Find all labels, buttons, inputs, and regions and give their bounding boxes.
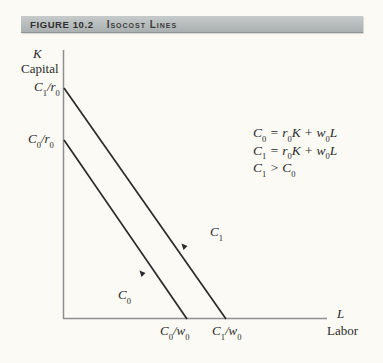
math-fragment: 1 [262, 169, 266, 179]
isocost-plot [0, 0, 383, 363]
math-fragment: C [253, 125, 262, 140]
math-fragment: 0 [287, 134, 291, 144]
equation-c0: C0 = r0K + w0L [253, 124, 337, 142]
math-fragment: C [118, 287, 127, 302]
x-axis-symbol: L [337, 306, 344, 321]
figure-panel: FIGURE 10.2 Isocost Lines K Capital C1/r… [0, 0, 383, 363]
math-fragment: /w [173, 323, 185, 338]
math-fragment: > C [266, 160, 291, 175]
line-label-c1: C1 [210, 224, 223, 239]
math-fragment: /r [47, 79, 56, 94]
math-fragment: 1 [221, 332, 225, 342]
math-fragment: = r [266, 143, 287, 158]
arrow-marker-c1-icon [182, 244, 188, 251]
equation-inequality: C1 > C0 [253, 159, 337, 177]
math-fragment: 0 [287, 151, 291, 161]
math-fragment: 0 [50, 140, 54, 150]
math-fragment: 0 [326, 134, 330, 144]
math-fragment: C [210, 224, 219, 239]
math-fragment: 1 [219, 233, 223, 243]
arrow-marker-c0-icon [140, 271, 146, 278]
math-fragment: 0 [127, 296, 131, 306]
isocost-line-c1 [64, 88, 226, 319]
y-intercept-c0-r0: C0/r0 [28, 131, 54, 146]
math-fragment: 0 [56, 88, 60, 98]
math-fragment: L [330, 125, 338, 140]
math-fragment: K + w [292, 143, 326, 158]
x-intercept-c1-w0: C1/w0 [212, 323, 241, 338]
math-fragment: = r [266, 125, 287, 140]
line-label-c0: C0 [118, 287, 131, 302]
math-fragment: K + w [292, 125, 326, 140]
math-fragment: C [160, 323, 169, 338]
y-axis-symbol: K [33, 46, 42, 61]
math-fragment: C [253, 143, 262, 158]
math-fragment: C [28, 131, 37, 146]
math-fragment: 0 [169, 332, 173, 342]
math-fragment: 0 [291, 169, 295, 179]
x-axis-name: Labor [327, 323, 358, 338]
equations-annotation: C0 = r0K + w0L C1 = r0K + w0L C1 > C0 [253, 124, 337, 177]
y-axis-name: Capital [21, 61, 59, 76]
math-fragment: /r [41, 131, 50, 146]
math-fragment: 1 [262, 151, 266, 161]
math-fragment: 0 [262, 134, 266, 144]
math-fragment: 0 [326, 151, 330, 161]
y-intercept-c1-r0: C1/r0 [34, 79, 60, 94]
math-fragment: 1 [43, 88, 47, 98]
math-fragment: 0 [185, 332, 189, 342]
math-fragment: /w [225, 323, 237, 338]
x-intercept-c0-w0: C0/w0 [160, 323, 189, 338]
math-fragment: 0 [237, 332, 241, 342]
math-fragment: C [212, 323, 221, 338]
math-fragment: 0 [37, 140, 41, 150]
math-fragment: C [34, 79, 43, 94]
math-fragment: L [330, 143, 338, 158]
equation-c1: C1 = r0K + w0L [253, 142, 337, 160]
math-fragment: C [253, 160, 262, 175]
